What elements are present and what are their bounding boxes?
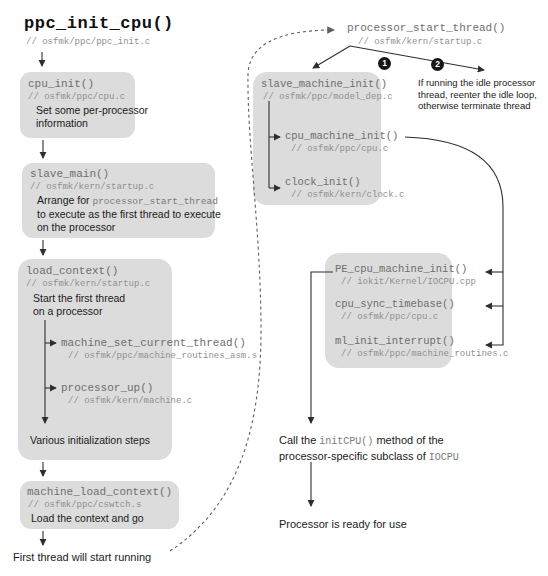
cpu-machine-init-fn: cpu_machine_init() — [285, 130, 398, 142]
slave-main-fn: slave_main() — [30, 168, 109, 180]
branch-1-badge: 1 — [378, 57, 391, 70]
cpu-sync-timebase-path: // osfmk/ppc/cpu.c — [341, 312, 438, 322]
machine-load-context-path: // osfmk/ppc/cswtch.s — [28, 500, 141, 510]
cpu-init-desc: Set some per-processor information — [36, 104, 148, 130]
slave-machine-init-path: // osfmk/ppc/model_dep.c — [263, 92, 393, 102]
slave-main-path: // osfmk/kern/startup.c — [30, 182, 154, 192]
ml-init-interrupt-fn: ml_init_interrupt() — [335, 335, 455, 347]
cpu-init-path: // osfmk/ppc/cpu.c — [28, 92, 125, 102]
machine-set-current-thread-fn: machine_set_current_thread() — [61, 337, 246, 349]
page-title-path: // osfmk/ppc/ppc_init.c — [26, 37, 150, 47]
processor-up-fn: processor_up() — [61, 382, 153, 394]
cpu-init-fn: cpu_init() — [28, 78, 94, 90]
branch-2-badge: 2 — [431, 58, 444, 71]
cpu-machine-init-path: // osfmk/ppc/cpu.c — [291, 144, 388, 154]
load-context-footer: Various initialization steps — [30, 434, 150, 447]
call-note-code-2: IOCPU — [429, 452, 459, 463]
idle-thread-note: If running the idle processor thread, re… — [418, 77, 537, 112]
slave-machine-init-fn: slave_machine_init() — [261, 78, 387, 90]
machine-load-context-desc: Load the context and go — [31, 512, 144, 525]
slave-main-desc-code: processor_start_thread — [92, 196, 217, 207]
machine-set-current-thread-path: // osfmk/ppc/machine_routines_asm.s — [68, 351, 257, 361]
clock-init-fn: clock_init() — [285, 176, 361, 188]
processor-ready-outcome: Processor is ready for use — [279, 518, 407, 531]
machine-load-context-fn: machine_load_context() — [27, 486, 172, 498]
cpu-sync-timebase-fn: cpu_sync_timebase() — [335, 298, 455, 310]
load-context-desc: Start the first thread on a processor — [33, 292, 125, 318]
page-title: ppc_init_cpu() — [24, 14, 174, 33]
processor-up-path: // osfmk/kern/machine.c — [68, 396, 192, 406]
first-thread-outcome: First thread will start running — [13, 551, 151, 564]
pe-cpu-machine-init-fn: PE_cpu_machine_init() — [335, 263, 467, 275]
call-note-text-1: Call the — [279, 434, 319, 446]
slave-main-desc-rest: to execute as the first thread to execut… — [37, 208, 221, 233]
slave-main-desc-prefix: Arrange for — [37, 194, 92, 206]
call-note-code-1: initCPU() — [319, 436, 373, 447]
clock-init-path: // osfmk/kern/clock.c — [291, 190, 404, 200]
flow-diagram: 1 2 ppc_init_cpu() // osfmk/ppc/ppc_init… — [0, 0, 548, 576]
slave-main-desc: Arrange for processor_start_thread to ex… — [37, 194, 221, 234]
call-initcpu-note: Call the initCPU() method of the process… — [279, 433, 459, 465]
processor-start-thread-fn: processor_start_thread() — [347, 22, 505, 34]
ml-init-interrupt-path: // osfmk/ppc/machine_routines.c — [341, 349, 508, 359]
pe-cpu-machine-init-path: // iokit/Kernel/IOCPU.cpp — [341, 277, 476, 287]
load-context-fn: load_context() — [26, 265, 118, 277]
load-context-path: // osfmk/kern/startup.c — [26, 279, 150, 289]
processor-start-thread-path: // osfmk/kern/startup.c — [358, 37, 482, 47]
